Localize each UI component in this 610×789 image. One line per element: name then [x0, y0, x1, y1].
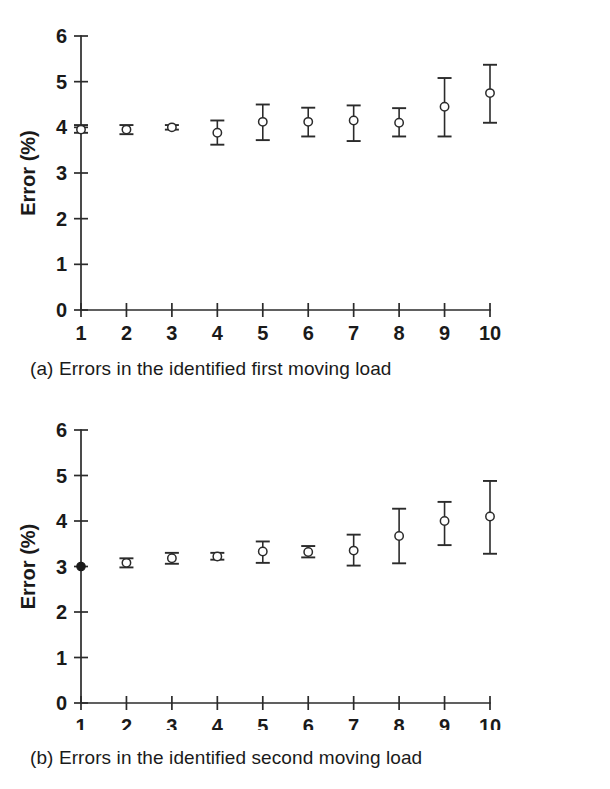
- x-tick-label: 7: [348, 715, 359, 730]
- panel-b-caption: (b) Errors in the identified second movi…: [30, 747, 422, 769]
- data-marker-open: [213, 552, 221, 560]
- data-point: [483, 65, 497, 123]
- data-point: [119, 558, 133, 567]
- data-point: [165, 553, 179, 564]
- data-marker-open: [486, 512, 494, 520]
- data-marker-open: [395, 119, 403, 127]
- data-point: [210, 120, 224, 144]
- plot-area-a: 012345612345678910Noise level (%)Error (…: [0, 0, 610, 345]
- x-tick-label: 9: [439, 715, 450, 730]
- x-tick-label: 8: [394, 322, 405, 344]
- x-tick-label: 6: [303, 715, 314, 730]
- data-marker-open: [440, 517, 448, 525]
- x-tick-label: 1: [75, 715, 86, 730]
- x-tick-label: 10: [479, 715, 501, 730]
- data-point: [165, 123, 179, 131]
- data-marker-open: [440, 103, 448, 111]
- data-point: [301, 108, 315, 137]
- data-point: [347, 535, 361, 566]
- y-axis-title: Error (%): [17, 524, 39, 610]
- data-point: [438, 78, 452, 136]
- y-tick-label: 4: [56, 116, 68, 138]
- x-tick-label: 5: [257, 322, 268, 344]
- x-tick-label: 10: [479, 322, 501, 344]
- data-point: [301, 546, 315, 557]
- data-marker-open: [213, 129, 221, 137]
- data-marker-open: [122, 125, 130, 133]
- figure-panel-a: 012345612345678910Noise level (%)Error (…: [0, 0, 610, 395]
- x-tick-label: 1: [75, 322, 86, 344]
- y-tick-label: 0: [56, 692, 67, 714]
- scatter-plot-b: 012345612345678910Noise level (%)Error (…: [0, 395, 610, 730]
- data-point: [256, 105, 270, 141]
- y-tick-label: 1: [56, 647, 67, 669]
- x-tick-label: 2: [121, 322, 132, 344]
- data-marker-open: [77, 125, 85, 133]
- data-marker-open: [259, 547, 267, 555]
- data-point: [483, 481, 497, 554]
- data-marker-open: [486, 89, 494, 97]
- y-tick-label: 3: [56, 556, 67, 578]
- data-point: [347, 105, 361, 141]
- y-tick-label: 1: [56, 253, 67, 275]
- figure-panel-b: 012345612345678910Noise level (%)Error (…: [0, 395, 610, 789]
- data-marker-open: [259, 118, 267, 126]
- y-tick-label: 6: [56, 25, 67, 47]
- x-tick-label: 3: [166, 715, 177, 730]
- y-tick-label: 2: [56, 208, 67, 230]
- data-marker-filled: [77, 562, 85, 570]
- data-point: [210, 552, 224, 560]
- data-marker-open: [168, 554, 176, 562]
- x-tick-label: 4: [212, 715, 224, 730]
- data-marker-open: [122, 559, 130, 567]
- scatter-plot-a: 012345612345678910Noise level (%)Error (…: [0, 0, 610, 345]
- data-marker-open: [168, 123, 176, 131]
- y-tick-label: 2: [56, 601, 67, 623]
- data-marker-open: [304, 548, 312, 556]
- y-tick-label: 5: [56, 71, 67, 93]
- y-tick-label: 5: [56, 465, 67, 487]
- x-tick-label: 7: [348, 322, 359, 344]
- data-point: [77, 562, 85, 570]
- y-tick-label: 3: [56, 162, 67, 184]
- data-marker-open: [304, 118, 312, 126]
- data-point: [119, 125, 133, 134]
- data-marker-open: [349, 116, 357, 124]
- x-tick-label: 8: [394, 715, 405, 730]
- data-point: [438, 502, 452, 545]
- data-point: [392, 509, 406, 564]
- panel-a-caption: (a) Errors in the identified first movin…: [30, 358, 392, 380]
- x-tick-label: 3: [166, 322, 177, 344]
- y-tick-label: 0: [56, 299, 67, 321]
- plot-area-b: 012345612345678910Noise level (%)Error (…: [0, 395, 610, 730]
- x-tick-label: 4: [212, 322, 224, 344]
- data-point: [392, 108, 406, 136]
- x-tick-label: 9: [439, 322, 450, 344]
- y-tick-label: 4: [56, 510, 68, 532]
- x-tick-label: 6: [303, 322, 314, 344]
- y-tick-label: 6: [56, 419, 67, 441]
- x-tick-label: 2: [121, 715, 132, 730]
- data-marker-open: [395, 532, 403, 540]
- data-point: [256, 541, 270, 562]
- data-marker-open: [349, 546, 357, 554]
- x-tick-label: 5: [257, 715, 268, 730]
- y-axis-title: Error (%): [17, 130, 39, 216]
- data-point: [74, 125, 88, 134]
